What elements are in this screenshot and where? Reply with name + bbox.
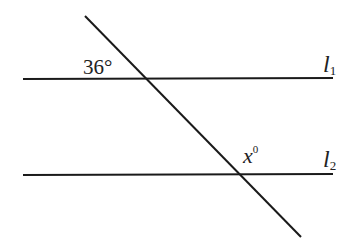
line-l2-label: l2 (323, 146, 336, 173)
angle-36-label: 36° (83, 55, 112, 79)
transversal-line (85, 16, 301, 237)
line-l1-label: l1 (323, 51, 336, 78)
angle-x-label: x0 (242, 143, 259, 168)
line-l1 (23, 78, 333, 79)
line-l2 (23, 174, 333, 175)
parallel-lines-diagram: 36° l1 x0 l2 (0, 0, 355, 252)
